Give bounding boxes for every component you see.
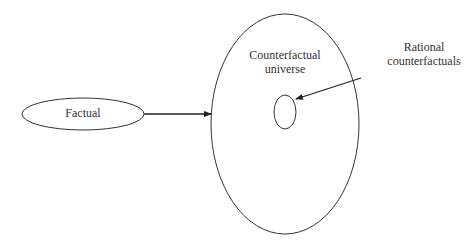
- counterfactual-universe-ellipse: [211, 14, 359, 234]
- rational-to-subset-arrow: [296, 78, 361, 99]
- rational-counterfactuals-label-line1: Rational: [380, 40, 468, 54]
- counterfactual-universe-label-line2: universe: [240, 62, 330, 76]
- rational-counterfactuals-ellipse: [274, 95, 296, 129]
- counterfactual-universe-label-line1: Counterfactual: [240, 48, 330, 62]
- factual-label: Factual: [53, 106, 113, 120]
- counterfactual-universe-label: Counterfactual universe: [240, 48, 330, 76]
- diagram-canvas: [0, 0, 468, 243]
- rational-counterfactuals-label-line2: counterfactuals: [380, 54, 468, 68]
- rational-counterfactuals-label: Rational counterfactuals: [380, 40, 468, 68]
